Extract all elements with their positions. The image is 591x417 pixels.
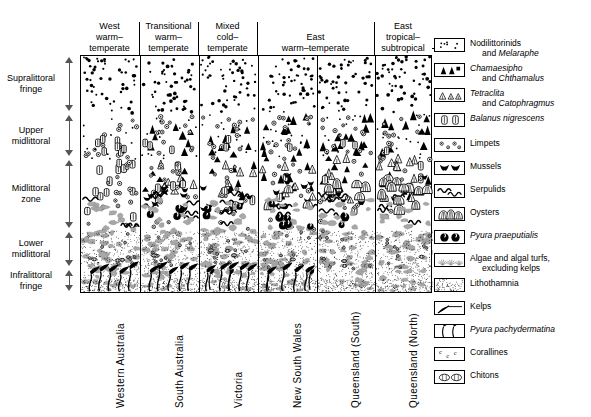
header-separator-3 [374,22,375,55]
location-label-1: South Australia [139,296,198,414]
chamaesipho-icon [434,63,465,77]
legend-item-line1: Oysters [470,207,499,217]
climate-zone-header-line: temperate [89,43,130,54]
legend-item-label: Limpets [470,138,500,148]
zone-label-line1: Midlittoral [0,183,62,194]
legend-item-12: Pyura pachydermatina [434,324,591,338]
legend-item-line1: Serpulids [470,184,505,194]
zone-label-line2: zone [0,194,62,205]
location-label-3: New South Wales [257,296,316,414]
zone-label-line2: fringe [0,84,62,95]
legend-item-10: Lithothamnia [434,278,591,292]
nodilittorinids-icon [434,38,465,52]
pyura-praeputialis-icon [434,230,465,244]
legend-item-2: Tetraclitaand Catophragmus [434,88,591,108]
legend-item-line2-taxon: Melaraphe [499,48,539,58]
serpulids-icon [434,184,465,198]
zone-label-line1: Upper [0,125,62,136]
legend-item-line2-prefix: and [482,48,499,58]
legend-item-3: Balanus nigrescens [434,113,591,127]
zone-extent-arrow-4 [62,270,78,291]
climate-zone-header: Westwarm–temperateTransitionalwarm–tempe… [80,10,432,55]
legend-item-label: Corallines [470,347,508,357]
legend-item-label: Lithothamnia [470,278,519,288]
legend: Nodilittorinidsand MelarapheChamaesiphoa… [434,38,591,378]
zone-label-line2: midlittoral [0,249,62,260]
location-label-row: Western AustraliaSouth AustraliaVictoria… [80,296,432,414]
zone-label-line1: Supralittoral [0,73,62,84]
legend-item-8: Pyura praeputialis [434,230,591,244]
climate-zone-header-line: warm– [96,32,123,43]
climate-zone-header-line: Transitional [145,21,191,32]
legend-item-label: Algae and algal turfs,excluding kelps [470,253,550,273]
column-separator-4 [317,56,318,292]
shore-profile-column-4: ccc [317,56,375,292]
zone-label-3: Lowermidlittoral [0,238,62,260]
legend-item-line1: Pyura praeputialis [470,230,538,240]
climate-zone-header-line: temperate [148,43,189,54]
legend-item-line2: and Chthamalus [470,73,544,83]
legend-item-line2-taxon: Chthamalus [499,73,544,83]
column-separator-1 [140,56,141,292]
zonation-chart: ccccccccccccccccccccccccc [80,55,432,293]
climate-zone-header-line: East [394,21,412,32]
legend-item-13: cccCorallines [434,347,591,361]
legend-item-label: Pyura praeputialis [470,230,538,240]
kelps-icon [434,301,465,315]
legend-item-line1: Lithothamnia [470,278,519,288]
location-label-text: Queensland (South) [350,311,361,408]
location-label-2: Victoria [198,296,257,414]
zone-label-1: Uppermidlittoral [0,125,62,147]
climate-zone-header-line: temperate [207,43,248,54]
legend-item-line1: Balanus nigrescens [470,113,544,123]
zone-label-column: SupralittoralfringeUppermidlittoralMidli… [0,55,62,293]
legend-item-label: Tetraclitaand Catophragmus [470,88,554,108]
svg-text:c: c [446,352,449,359]
shore-profile-column-0: cccccc [81,56,140,292]
legend-item-4: Limpets [434,138,591,152]
header-separator-2 [257,22,258,55]
zone-label-line1: Lower [0,238,62,249]
legend-item-line1: Tetraclita [470,88,504,98]
climate-zone-header-line: warm– [155,32,182,43]
legend-item-label: Pyura pachydermatina [470,324,555,334]
legend-item-5: Mussels [434,161,591,175]
legend-item-line2-prefix: and [482,73,499,83]
legend-item-line2: and Catophragmus [470,98,554,108]
legend-item-line1: Chamaesipho [470,63,522,73]
legend-item-label: Chitons [470,370,499,380]
column-separator-5 [375,56,376,292]
climate-zone-header-line: warm–temperate [282,43,350,54]
zone-extent-arrow-3 [62,232,78,266]
legend-item-label: Kelps [470,301,491,311]
zone-extent-arrow-1 [62,115,78,156]
legend-item-line1: Corallines [470,347,508,357]
svg-text:c: c [454,349,457,356]
limpets-icon [434,138,465,152]
column-separator-3 [258,56,259,292]
legend-item-line1: Mussels [470,161,501,171]
balanus-icon [434,113,465,127]
legend-item-line2: and Melaraphe [470,48,539,58]
legend-item-label: Chamaesiphoand Chthamalus [470,63,544,83]
climate-zone-header-0: Westwarm–temperate [80,10,139,55]
legend-item-label: Nodilittorinidsand Melaraphe [470,38,539,58]
zone-extent-arrow-0 [62,57,78,111]
zone-label-line2: midlittoral [0,136,62,147]
location-label-text: Queensland (North) [408,313,419,408]
legend-item-label: Serpulids [470,184,505,194]
corallines-icon: ccc [434,347,465,361]
location-label-text: New South Wales [292,323,303,408]
location-label-0: Western Australia [80,296,139,414]
column-separator-2 [199,56,200,292]
legend-item-7: Oysters [434,207,591,221]
legend-item-line1: Pyura pachydermatina [470,324,555,334]
location-label-text: South Australia [174,335,185,408]
legend-item-label: Balanus nigrescens [470,113,544,123]
climate-zone-header-line: West [99,21,119,32]
oysters-icon [434,207,465,221]
zone-label-0: Supralittoralfringe [0,73,62,95]
legend-item-label: Mussels [470,161,501,171]
lithothamnia-icon [434,278,465,292]
legend-item-line1: Chitons [470,370,499,380]
